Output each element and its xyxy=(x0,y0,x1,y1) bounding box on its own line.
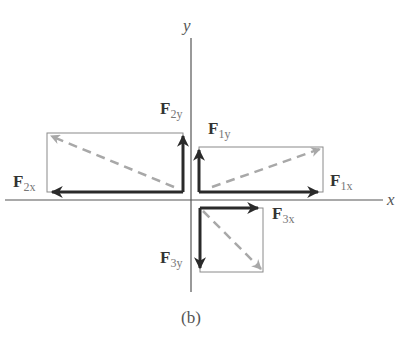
vector-f1-group: F1x F1y xyxy=(199,119,352,193)
vector-f3-group: F3x F3y xyxy=(160,204,294,272)
f2-resultant-arrow xyxy=(51,136,174,187)
f3-parallelogram-box xyxy=(200,208,263,272)
f3y-label: F3y xyxy=(160,248,182,270)
f3x-label: F3x xyxy=(272,204,294,226)
f2x-label: F2x xyxy=(13,172,35,194)
force-components-diagram: x y F2x F2y F1x F1y F3x xyxy=(0,0,401,348)
f1x-label: F1x xyxy=(330,171,352,193)
figure-caption: (b) xyxy=(181,308,201,327)
vector-f2-group: F2x F2y xyxy=(13,99,183,194)
f2y-label: F2y xyxy=(160,99,182,121)
x-axis-label: x xyxy=(386,190,395,209)
f1y-label: F1y xyxy=(208,119,230,141)
f1-resultant-arrow xyxy=(212,149,320,187)
f3-resultant-arrow xyxy=(203,211,261,269)
y-axis-label: y xyxy=(181,16,191,35)
